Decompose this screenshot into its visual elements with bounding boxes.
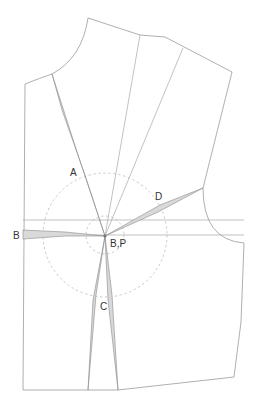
label-b: B bbox=[13, 230, 20, 241]
bodice-pattern-diagram: A B D C B,P bbox=[0, 0, 257, 411]
label-c: C bbox=[100, 301, 107, 312]
dart-c bbox=[88, 236, 105, 390]
label-d: D bbox=[155, 191, 162, 202]
label-apex: B,P bbox=[110, 238, 126, 249]
dart-c-right bbox=[105, 236, 118, 390]
dart-a bbox=[52, 74, 105, 236]
bust-apex-point bbox=[103, 234, 106, 237]
label-a: A bbox=[70, 167, 77, 178]
shoulder-guide-1 bbox=[105, 35, 140, 236]
shoulder-guide-2 bbox=[105, 48, 183, 236]
dart-b bbox=[23, 230, 105, 239]
dart-d bbox=[105, 188, 203, 236]
